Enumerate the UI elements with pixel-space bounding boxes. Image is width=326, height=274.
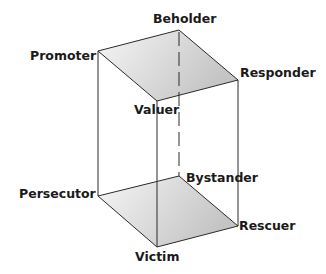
label-responder: Responder: [240, 66, 316, 80]
label-victim: Victim: [135, 250, 179, 264]
label-rescuer: Rescuer: [239, 219, 296, 233]
label-beholder: Beholder: [153, 12, 216, 26]
label-bystander: Bystander: [186, 171, 258, 185]
label-promoter: Promoter: [30, 49, 96, 63]
top-face: [98, 30, 238, 101]
box-diagram: Beholder Promoter Responder Valuer Bysta…: [0, 0, 326, 274]
label-persecutor: Persecutor: [19, 187, 96, 201]
bottom-face: [98, 176, 238, 247]
label-valuer: Valuer: [134, 103, 179, 117]
